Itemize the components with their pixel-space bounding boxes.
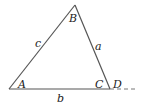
- side-label-c: c: [35, 37, 41, 50]
- side-label-a: a: [95, 40, 102, 53]
- side-label-b: b: [57, 92, 64, 105]
- vertex-label-c: C: [95, 78, 104, 91]
- vertex-label-a: A: [17, 78, 26, 91]
- side-a: [75, 5, 110, 89]
- point-label-d: D: [112, 78, 122, 91]
- triangle-diagram: B A C D c a b: [0, 0, 148, 107]
- vertex-label-b: B: [68, 12, 77, 25]
- side-c: [9, 5, 75, 89]
